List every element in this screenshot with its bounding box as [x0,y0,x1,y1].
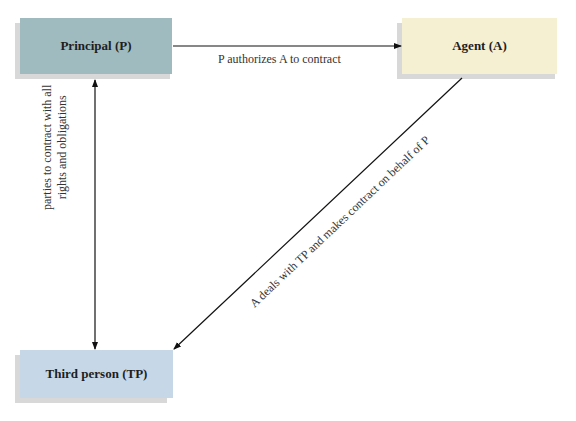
edge-label-parties: parties to contract with all rights and … [40,85,70,210]
arrow-agent-to-third [174,78,462,349]
edge-label-parties-line2: rights and obligations [55,85,70,210]
edge-label-parties-line1: parties to contract with all [40,85,55,210]
edge-label-authorizes: P authorizes A to contract [218,52,341,67]
